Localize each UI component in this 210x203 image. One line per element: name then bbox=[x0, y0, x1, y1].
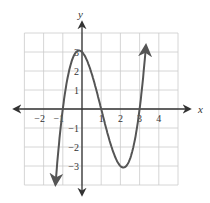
y-axis-label: y bbox=[77, 8, 83, 20]
x-axis-label: x bbox=[197, 103, 203, 115]
y-tick-label: −1 bbox=[68, 123, 79, 134]
x-tick-label: 2 bbox=[118, 113, 123, 124]
y-tick-label: −2 bbox=[68, 142, 79, 153]
cubic-graph: −2−11234−3−2−1123 x y bbox=[0, 0, 210, 203]
x-tick-label: −2 bbox=[34, 113, 45, 124]
x-tick-label: 4 bbox=[156, 113, 161, 124]
y-tick-label: 1 bbox=[74, 85, 79, 96]
y-tick-label: −3 bbox=[68, 161, 79, 172]
y-tick-label: 2 bbox=[74, 66, 79, 77]
